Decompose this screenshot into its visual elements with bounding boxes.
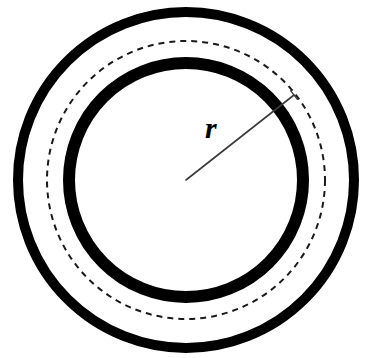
- concentric-circles-diagram: [0, 0, 371, 358]
- figure-canvas: r: [0, 0, 371, 358]
- radius-label: r: [205, 113, 217, 143]
- diagram-background: [0, 0, 371, 358]
